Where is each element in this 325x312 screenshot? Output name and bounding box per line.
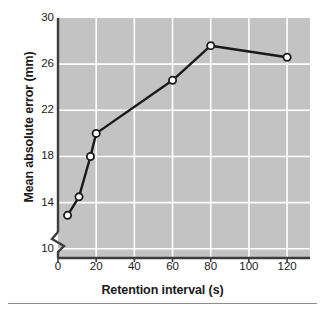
bottom-divider (8, 303, 317, 304)
data-point-marker (75, 193, 82, 200)
chart-figure: 101418222630 020406080100120 Mean absolu… (0, 0, 325, 312)
x-tick-label: 100 (229, 260, 269, 272)
y-tick-label: 30 (28, 12, 54, 23)
y-axis-title: Mean absolute error (mm) (22, 27, 36, 227)
x-axis-title: Retention interval (s) (0, 283, 325, 297)
data-point-marker (93, 130, 100, 137)
x-tick-label: 0 (38, 260, 78, 272)
data-point-marker (87, 153, 94, 160)
data-point-marker (283, 54, 290, 61)
x-tick-label: 60 (153, 260, 193, 272)
x-tick-label: 120 (267, 260, 307, 272)
x-tick-label: 20 (76, 260, 116, 272)
data-point-marker (207, 42, 214, 49)
x-tick-label: 40 (114, 260, 154, 272)
data-point-marker (169, 77, 176, 84)
data-point-marker (64, 212, 71, 219)
x-tick-label: 80 (191, 260, 231, 272)
x-axis-tick-labels: 020406080100120 (0, 260, 325, 278)
y-tick-label: 10 (28, 243, 54, 254)
